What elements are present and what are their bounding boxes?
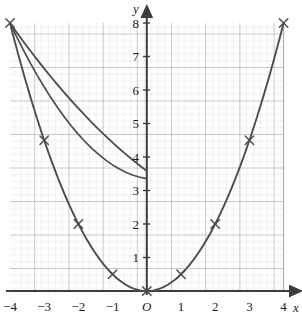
y-tick-label-4: 4 bbox=[133, 150, 140, 165]
y-tick-label-7: 7 bbox=[133, 49, 140, 64]
origin-label: O bbox=[142, 299, 152, 314]
y-tick-label-8: 8 bbox=[133, 16, 140, 31]
x-tick-label-minus4: −4 bbox=[3, 299, 17, 314]
graph-figure: 1 2 3 4 5 6 7 8 −4 −3 −2 −1 O 1 2 3 4 y … bbox=[0, 0, 302, 319]
y-tick-label-5: 5 bbox=[133, 116, 140, 131]
y-tick-label-2: 2 bbox=[133, 217, 140, 232]
y-tick-label-1: 1 bbox=[133, 250, 140, 265]
x-tick-label-minus3: −3 bbox=[37, 299, 51, 314]
y-axis-label: y bbox=[131, 1, 139, 16]
y-tick-label-6: 6 bbox=[133, 83, 140, 98]
x-tick-label-4: 4 bbox=[280, 299, 287, 314]
x-tick-label-minus1: −1 bbox=[106, 299, 120, 314]
x-tick-label-1: 1 bbox=[178, 299, 185, 314]
x-tick-label-2: 2 bbox=[212, 299, 219, 314]
x-tick-label-minus2: −2 bbox=[71, 299, 85, 314]
x-axis-label: x bbox=[292, 300, 299, 315]
x-tick-label-3: 3 bbox=[246, 299, 253, 314]
parabola-chart: 1 2 3 4 5 6 7 8 −4 −3 −2 −1 O 1 2 3 4 y … bbox=[0, 0, 302, 319]
x-tick-labels: −4 −3 −2 −1 O 1 2 3 4 bbox=[3, 299, 287, 314]
y-tick-label-3: 3 bbox=[133, 183, 140, 198]
